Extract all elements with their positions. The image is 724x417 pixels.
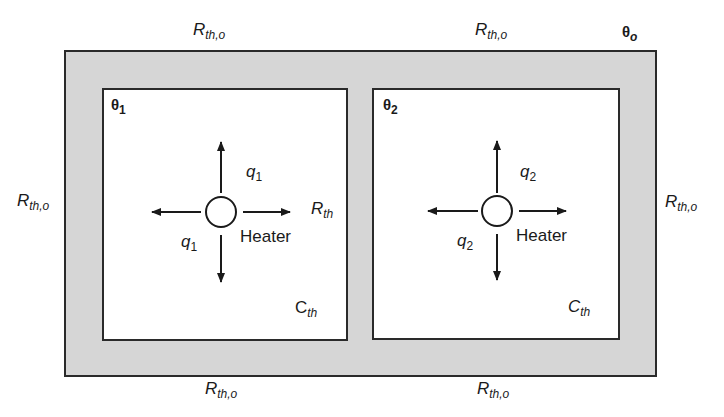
label-theta-2: θ2 [383,96,398,117]
label-rth-inner: Rth [311,199,333,221]
label-cth-2: Cth [568,297,590,319]
label-q1-top: q1 [246,162,262,184]
label-theta-1: θ1 [111,96,126,117]
label-heater-2: Heater [516,226,567,246]
label-rth-o-bottom-left: Rth,o [205,379,237,401]
heat-flow-arrows [0,0,724,417]
label-rth-o-bottom-right: Rth,o [477,379,509,401]
label-heater-1: Heater [240,227,291,247]
label-rth-o-right: Rth,o [665,192,697,214]
label-rth-o-left: Rth,o [17,191,49,213]
heater-2-icon [428,141,566,280]
label-q2-top: q2 [520,162,536,184]
label-cth-1: Cth [295,298,317,320]
label-ambient-temp: θo [622,23,637,44]
label-rth-o-top-right: Rth,o [475,20,507,42]
label-q1-bottom: q1 [181,232,197,254]
label-rth-o-top-left: Rth,o [193,20,225,42]
heater-1-icon [152,142,290,282]
label-q2-bottom: q2 [457,231,473,253]
